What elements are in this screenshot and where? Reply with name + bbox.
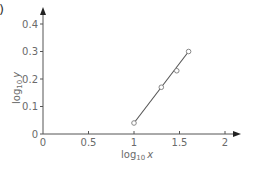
data-point-marker bbox=[174, 68, 179, 73]
data-point-marker bbox=[159, 85, 164, 90]
x-tick-label: 0.5 bbox=[81, 137, 97, 148]
x-axis-arrow-icon bbox=[233, 131, 241, 137]
data-point-marker bbox=[186, 49, 191, 54]
x-tick-label: 1.5 bbox=[172, 137, 188, 148]
y-axis-arrow-icon bbox=[40, 7, 46, 15]
x-tick-label: 0 bbox=[40, 137, 46, 148]
y-tick-label: 0.4 bbox=[22, 19, 38, 30]
tick-marks: 00.511.5200.10.20.30.4 bbox=[22, 19, 228, 149]
y-tick-label: 0 bbox=[32, 129, 38, 140]
panel-label-fragment: ) bbox=[0, 2, 4, 17]
x-axis-label: log10x bbox=[121, 149, 153, 162]
data-point-marker bbox=[132, 121, 137, 126]
y-tick-label: 0.2 bbox=[22, 74, 38, 85]
log-log-chart: ) 00.511.5200.10.20.30.4 log10x log10y bbox=[0, 0, 253, 173]
axes bbox=[40, 7, 241, 137]
y-tick-label: 0.1 bbox=[22, 101, 38, 112]
x-tick-label: 1 bbox=[131, 137, 137, 148]
x-tick-label: 2 bbox=[222, 137, 228, 148]
y-tick-label: 0.3 bbox=[22, 46, 38, 57]
